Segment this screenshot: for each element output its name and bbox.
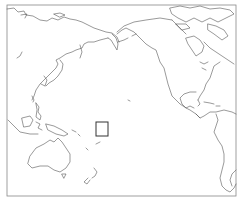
coastline-north-america-east: [172, 20, 234, 100]
coastline-alaska: [117, 28, 200, 118]
coastline-japan: [46, 60, 63, 86]
coastline-arctic-archipelago: [170, 6, 234, 22]
coastline-south-america-east: [230, 170, 236, 186]
coastline-asia-east: [32, 38, 108, 100]
coastline-fiji: [86, 142, 100, 150]
coastline-hawaii: [128, 100, 130, 101]
coastline-sakhalin: [80, 45, 82, 58]
coastline-victoria-island: [176, 24, 190, 30]
coastline-baffin: [208, 24, 228, 40]
coastline-caribbean: [204, 102, 220, 106]
coastline-sulawesi: [36, 122, 42, 130]
coastline-alaska-north: [117, 18, 172, 32]
region-of-interest-box: [96, 122, 108, 136]
map-frame: [7, 5, 236, 196]
coastline-australia: [28, 138, 70, 172]
coastline-philippines: [36, 103, 41, 120]
lake-baikal: [17, 52, 22, 58]
coastline-tasmania: [62, 174, 66, 178]
coastline-borneo: [22, 116, 33, 127]
coastline-siberia: [7, 8, 119, 42]
great-lakes: [200, 62, 208, 70]
coastline-solomons: [72, 130, 80, 136]
coastline-new-zealand: [84, 168, 97, 184]
world-map-pacific: [0, 0, 240, 203]
coastline-aleutians: [118, 34, 136, 42]
coastline-taymyr-islands: [54, 13, 65, 17]
coastline-hudson-bay: [186, 36, 204, 56]
coastline-gulf-of-mexico: [180, 92, 200, 108]
coastline-new-guinea: [46, 124, 68, 136]
coastline-south-america-west: [214, 114, 236, 192]
